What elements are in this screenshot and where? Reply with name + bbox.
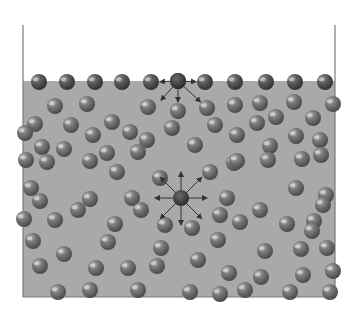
surface-focus-molecule bbox=[170, 73, 186, 89]
surface-molecule bbox=[87, 74, 103, 90]
bulk-molecule bbox=[120, 260, 136, 276]
bulk-molecule bbox=[25, 233, 41, 249]
bulk-molecule bbox=[286, 94, 302, 110]
bulk-molecule bbox=[237, 282, 253, 298]
bulk-molecule bbox=[170, 103, 186, 119]
bulk-molecule bbox=[82, 153, 98, 169]
bulk-molecule bbox=[322, 284, 338, 300]
bulk-molecule bbox=[130, 282, 146, 298]
bulk-molecule bbox=[253, 269, 269, 285]
surface-molecule bbox=[31, 74, 47, 90]
bulk-molecule bbox=[47, 98, 63, 114]
bulk-molecule bbox=[56, 246, 72, 262]
bulk-molecule bbox=[325, 263, 341, 279]
bulk-molecule bbox=[315, 197, 331, 213]
bulk-molecule bbox=[149, 258, 165, 274]
bulk-molecule bbox=[207, 117, 223, 133]
bulk-molecule bbox=[212, 207, 228, 223]
bulk-focus-molecule bbox=[173, 190, 189, 206]
bulk-molecule bbox=[82, 282, 98, 298]
bulk-molecule bbox=[219, 190, 235, 206]
bulk-molecule bbox=[227, 97, 243, 113]
bulk-molecule bbox=[312, 132, 328, 148]
bulk-molecule bbox=[56, 141, 72, 157]
bulk-molecule bbox=[88, 260, 104, 276]
bulk-molecule bbox=[313, 147, 329, 163]
bulk-molecule bbox=[107, 216, 123, 232]
bulk-molecule bbox=[252, 95, 268, 111]
bulk-molecule bbox=[104, 114, 120, 130]
bulk-molecule bbox=[295, 267, 311, 283]
bulk-molecule bbox=[47, 212, 63, 228]
bulk-molecule bbox=[229, 127, 245, 143]
surface-molecule bbox=[59, 74, 75, 90]
bulk-molecule bbox=[164, 120, 180, 136]
bulk-molecule bbox=[262, 138, 278, 154]
surface-molecule bbox=[287, 74, 303, 90]
bulk-molecule bbox=[63, 117, 79, 133]
bulk-molecule bbox=[212, 286, 228, 302]
bulk-molecule bbox=[221, 265, 237, 281]
bulk-molecule bbox=[257, 243, 273, 259]
bulk-molecule bbox=[325, 96, 341, 112]
bulk-molecule bbox=[130, 144, 146, 160]
surface-molecule bbox=[258, 74, 274, 90]
bulk-molecule bbox=[305, 110, 321, 126]
bulk-molecule bbox=[294, 151, 310, 167]
bulk-molecule bbox=[133, 202, 149, 218]
bulk-molecule bbox=[157, 217, 173, 233]
bulk-molecule bbox=[229, 153, 245, 169]
bulk-molecule bbox=[82, 191, 98, 207]
bulk-molecule bbox=[279, 216, 295, 232]
surface-molecule bbox=[197, 74, 213, 90]
bulk-molecule bbox=[50, 284, 66, 300]
bulk-molecule bbox=[153, 240, 169, 256]
bulk-molecule bbox=[268, 109, 284, 125]
bulk-molecule bbox=[18, 152, 34, 168]
bulk-molecule bbox=[210, 232, 226, 248]
bulk-molecule bbox=[187, 137, 203, 153]
bulk-molecule bbox=[260, 152, 276, 168]
bulk-molecule bbox=[109, 164, 125, 180]
bulk-molecule bbox=[79, 96, 95, 112]
bulk-molecule bbox=[232, 214, 248, 230]
bulk-molecule bbox=[319, 240, 335, 256]
bulk-molecule bbox=[288, 180, 304, 196]
bulk-molecule bbox=[140, 99, 156, 115]
surface-tension-diagram bbox=[0, 0, 357, 322]
bulk-molecule bbox=[39, 154, 55, 170]
bulk-molecule bbox=[23, 180, 39, 196]
surface-molecule bbox=[114, 74, 130, 90]
bulk-molecule bbox=[100, 234, 116, 250]
bulk-molecule bbox=[85, 127, 101, 143]
bulk-molecule bbox=[199, 100, 215, 116]
surface-molecule bbox=[143, 74, 159, 90]
bulk-molecule bbox=[304, 223, 320, 239]
bulk-molecule bbox=[182, 284, 198, 300]
bulk-molecule bbox=[288, 128, 304, 144]
bulk-molecule bbox=[249, 115, 265, 131]
bulk-molecule bbox=[202, 164, 218, 180]
bulk-molecule bbox=[32, 258, 48, 274]
bulk-molecule bbox=[70, 202, 86, 218]
bulk-molecule bbox=[152, 170, 168, 186]
bulk-molecule bbox=[16, 211, 32, 227]
bulk-molecule bbox=[122, 124, 138, 140]
bulk-molecule bbox=[99, 145, 115, 161]
bulk-molecule bbox=[184, 220, 200, 236]
bulk-molecule bbox=[252, 202, 268, 218]
bulk-molecule bbox=[293, 241, 309, 257]
surface-molecule bbox=[227, 74, 243, 90]
bulk-molecule bbox=[17, 125, 33, 141]
bulk-molecule bbox=[34, 139, 50, 155]
bulk-molecule bbox=[282, 284, 298, 300]
surface-molecule bbox=[317, 74, 333, 90]
bulk-molecule bbox=[32, 193, 48, 209]
bulk-molecule bbox=[190, 252, 206, 268]
